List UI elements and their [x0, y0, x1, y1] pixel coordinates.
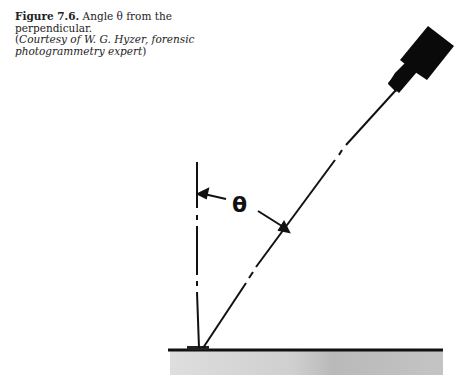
ground-surface	[168, 350, 443, 375]
line-of-sight	[203, 90, 396, 348]
camera-icon	[388, 26, 454, 93]
angle-diagram: θ	[0, 0, 475, 381]
perpendicular-line	[197, 162, 199, 348]
angle-theta-label: θ	[232, 192, 247, 217]
